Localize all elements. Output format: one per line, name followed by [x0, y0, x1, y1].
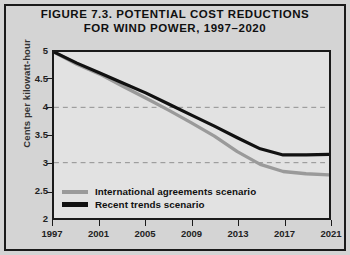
series-lines — [54, 52, 329, 175]
x-tick-label-1997: 1997 — [29, 228, 75, 239]
x-tick-mark-1997 — [52, 220, 53, 226]
x-tick-mark-2005 — [145, 220, 146, 226]
legend-label-recent-trends-scenario: Recent trends scenario — [95, 199, 204, 210]
legend-swatch-international-agreements-scenario — [62, 190, 88, 194]
x-tick-mark-2017 — [285, 220, 286, 226]
x-tick-label-2001: 2001 — [76, 228, 122, 239]
y-tick-label-5: 5 — [8, 45, 48, 56]
legend-item-recent-trends-scenario: Recent trends scenario — [62, 198, 256, 211]
x-tick-label-2017: 2017 — [262, 228, 308, 239]
x-tick-mark-2001 — [99, 220, 100, 226]
figure-title-line-2: FOR WIND POWER, 1997–2020 — [0, 22, 350, 36]
chart-legend: International agreements scenario Recent… — [62, 185, 256, 211]
y-tick-label-2.5: 2.5 — [8, 185, 48, 196]
x-tick-label-2021: 2021 — [308, 228, 350, 239]
y-tick-label-2: 2 — [8, 213, 48, 224]
legend-label-international-agreements-scenario: International agreements scenario — [95, 186, 256, 197]
x-tick-label-2009: 2009 — [169, 228, 215, 239]
figure-title-line-1: FIGURE 7.3. POTENTIAL COST REDUCTIONS — [0, 8, 350, 22]
figure-container: FIGURE 7.3. POTENTIAL COST REDUCTIONS FO… — [0, 0, 350, 255]
x-tick-label-2005: 2005 — [122, 228, 168, 239]
figure-title: FIGURE 7.3. POTENTIAL COST REDUCTIONS FO… — [0, 8, 350, 35]
x-tick-mark-2013 — [238, 220, 239, 226]
y-tick-label-4: 4 — [8, 101, 48, 112]
y-tick-label-4.5: 4.5 — [8, 73, 48, 84]
line-recent-trends-scenario — [54, 52, 329, 155]
y-tick-label-3.5: 3.5 — [8, 129, 48, 140]
legend-swatch-recent-trends-scenario — [62, 202, 88, 207]
x-tick-label-2013: 2013 — [215, 228, 261, 239]
y-tick-label-3: 3 — [8, 157, 48, 168]
x-tick-mark-2021 — [331, 220, 332, 226]
legend-item-international-agreements-scenario: International agreements scenario — [62, 185, 256, 198]
x-tick-mark-2009 — [192, 220, 193, 226]
